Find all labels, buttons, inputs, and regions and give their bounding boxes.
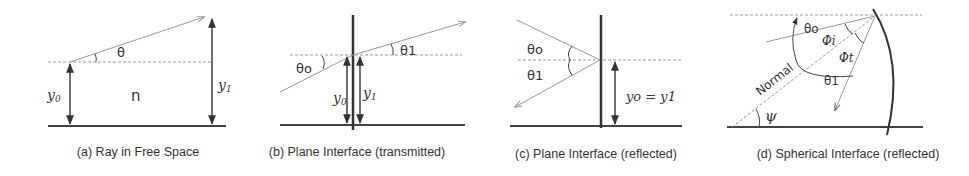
y0-label: y0	[46, 87, 61, 104]
normal-label: Normal	[753, 61, 796, 99]
theta-angle-arc	[95, 54, 96, 62]
caption-c: (c) Plane Interface (reflected)	[515, 147, 677, 161]
n-label: n	[131, 87, 141, 105]
y-equality-label: yo = y1	[625, 89, 676, 104]
theta0-label: θo	[527, 42, 543, 57]
caption-d: (d) Spherical Interface (reflected)	[757, 147, 940, 161]
panel-c-plane-interface-reflected: θo θ1 yo = y1 (c) Plane Interface (refle…	[510, 15, 682, 161]
y0-label: y0	[332, 90, 347, 107]
panel-d-spherical-interface-reflected: θo Φi Φt θ1 Normal ψ (d) Spherical Inter…	[727, 9, 939, 161]
phi-t-label: Φt	[839, 51, 854, 65]
theta0-label: θo	[296, 61, 312, 76]
y1-label: y1	[217, 77, 232, 94]
ray-arrow	[70, 17, 204, 62]
psi-label: ψ	[765, 107, 777, 125]
phi-t-angle-arc	[855, 33, 864, 43]
theta1-label: θ1	[824, 74, 839, 88]
panel-b-plane-interface-transmitted: θo θ1 y0 y1 (b) Plane Interface (transmi…	[269, 15, 465, 159]
psi-angle-arc	[756, 109, 760, 127]
theta-label: θ	[117, 45, 125, 60]
theta1-label: θ1	[400, 43, 416, 58]
incident-ray	[280, 55, 353, 92]
caption-a: (a) Ray in Free Space	[77, 145, 199, 159]
phi-i-angle-arc	[845, 24, 853, 34]
spherical-interface	[873, 9, 893, 135]
phi-i-label: Φi	[822, 34, 836, 48]
optics-diagram: θ n y0 y1 (a) Ray in Free Space θo θ1 y0…	[0, 0, 969, 176]
theta1-label: θ1	[527, 68, 543, 83]
theta0-label: θo	[804, 22, 819, 36]
panel-a-ray-free-space: θ n y0 y1 (a) Ray in Free Space	[46, 17, 232, 159]
theta1-angle-arc	[391, 44, 393, 55]
caption-b: (b) Plane Interface (transmitted)	[269, 145, 445, 159]
theta0-angle-arc	[322, 56, 324, 69]
y1-label: y1	[362, 85, 377, 102]
